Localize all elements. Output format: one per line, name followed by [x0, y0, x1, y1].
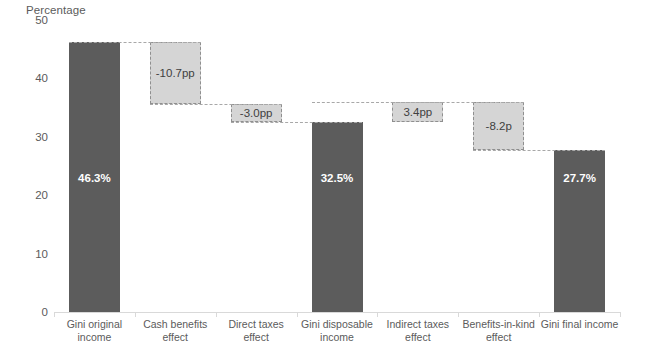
bar-value-label-3: -3.0pp: [232, 107, 281, 119]
x-tick-5: [458, 312, 459, 317]
bar-5-delta[interactable]: 3.4pp: [392, 102, 443, 122]
x-tick-4: [377, 312, 378, 317]
x-tick-3: [297, 312, 298, 317]
category-label-3: Direct taxes effect: [216, 318, 297, 344]
y-tick-label-10: 10: [8, 248, 48, 260]
connector-line-5: [392, 102, 524, 103]
connector-line-3: [231, 122, 363, 123]
bar-6-delta[interactable]: -8.2p: [473, 102, 524, 150]
x-tick-2: [216, 312, 217, 317]
bar-3-delta[interactable]: -3.0pp: [231, 104, 282, 122]
y-tick-label-20: 20: [8, 189, 48, 201]
bar-value-label-7: 27.7%: [554, 172, 605, 184]
bar-7-total[interactable]: 27.7%: [554, 150, 605, 312]
bar-1-total[interactable]: 46.3%: [69, 42, 120, 312]
connector-line-6: [473, 150, 605, 151]
bar-value-label-6: -8.2p: [474, 120, 523, 132]
connector-line-2: [150, 104, 282, 105]
category-label-2: Cash benefits effect: [135, 318, 216, 344]
bar-value-label-1: 46.3%: [69, 172, 120, 184]
bar-4-total[interactable]: 32.5%: [312, 122, 363, 312]
connector-line-1: [69, 42, 201, 43]
category-label-5: Indirect taxes effect: [377, 318, 458, 344]
bar-value-label-2: -10.7pp: [151, 67, 200, 79]
category-label-7: Gini final income: [539, 318, 620, 331]
x-tick-7: [620, 312, 621, 317]
x-axis-baseline: [54, 312, 620, 313]
y-tick-label-30: 30: [8, 131, 48, 143]
bar-value-label-5: 3.4pp: [393, 106, 442, 118]
bar-value-label-4: 32.5%: [312, 172, 363, 184]
y-tick-label-40: 40: [8, 72, 48, 84]
y-tick-label-0: 0: [8, 306, 48, 318]
y-axis-tick-labels: 50403020100: [0, 0, 48, 348]
category-label-4: Gini disposable income: [297, 318, 378, 344]
y-tick-label-50: 50: [8, 14, 48, 26]
x-tick-6: [539, 312, 540, 317]
category-label-1: Gini original income: [54, 318, 135, 344]
category-label-6: Benefits-in-kind effect: [458, 318, 539, 344]
x-tick-0: [54, 312, 55, 317]
waterfall-chart: Percentage 50403020100 Gini original inc…: [0, 0, 647, 348]
x-tick-1: [135, 312, 136, 317]
bar-2-delta[interactable]: -10.7pp: [150, 42, 201, 104]
